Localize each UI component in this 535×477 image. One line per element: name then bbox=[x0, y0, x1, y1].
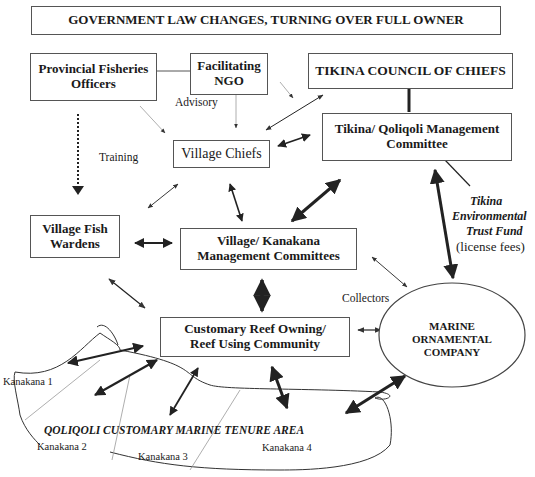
node-qoliqoli-committee: Tikina/ Qoliqoli Management Committee bbox=[322, 113, 512, 161]
label-kanakana-4: Kanakana 4 bbox=[262, 442, 312, 453]
node-label: Village/ Kanakana Management Committees bbox=[186, 234, 351, 264]
node-label: Village Fish Wardens bbox=[38, 222, 113, 252]
label-advisory: Advisory bbox=[175, 96, 218, 108]
node-village-chiefs: Village Chiefs bbox=[173, 140, 270, 168]
label-license-fees: (license fees) bbox=[456, 239, 525, 255]
node-village-fish-wardens: Village Fish Wardens bbox=[30, 215, 120, 258]
node-facilitating-ngo: Facilitating NGO bbox=[190, 53, 268, 95]
company-label: MARINE ORNAMENTAL COMPANY bbox=[402, 320, 502, 360]
node-label: Provincial Fisheries Officers bbox=[31, 62, 156, 92]
label-kanakana-3: Kanakana 3 bbox=[138, 451, 188, 462]
label-trust-fund-3: Trust Fund bbox=[466, 224, 523, 239]
node-label: Customary Reef Owning/ Reef Using Commun… bbox=[170, 322, 340, 352]
node-label: Facilitating NGO bbox=[194, 59, 264, 89]
diagram-canvas: GOVERNMENT LAW CHANGES, TURNING OVER FUL… bbox=[0, 0, 535, 477]
node-tikina-council: TIKINA COUNCIL OF CHIEFS bbox=[308, 53, 513, 89]
node-reef-community: Customary Reef Owning/ Reef Using Commun… bbox=[160, 317, 350, 357]
node-label: Tikina/ Qoliqoli Management Committee bbox=[327, 122, 507, 152]
label-kanakana-2: Kanakana 2 bbox=[37, 441, 87, 452]
label-kanakana-1: Kanakana 1 bbox=[3, 376, 53, 387]
node-label: TIKINA COUNCIL OF CHIEFS bbox=[315, 63, 505, 79]
label-training: Training bbox=[99, 151, 138, 163]
node-provincial-fisheries: Provincial Fisheries Officers bbox=[30, 53, 157, 101]
label-trust-fund-2: Environmental bbox=[452, 209, 527, 224]
node-village-committees: Village/ Kanakana Management Committees bbox=[180, 228, 357, 270]
node-label: Village Chiefs bbox=[181, 146, 261, 162]
header-text: GOVERNMENT LAW CHANGES, TURNING OVER FUL… bbox=[68, 13, 463, 28]
label-tenure-area: QOLIQOLI CUSTOMARY MARINE TENURE AREA bbox=[44, 424, 304, 436]
header-box: GOVERNMENT LAW CHANGES, TURNING OVER FUL… bbox=[31, 6, 501, 35]
label-collectors: Collectors bbox=[342, 292, 389, 304]
label-trust-fund-1: Tikina bbox=[470, 194, 502, 209]
